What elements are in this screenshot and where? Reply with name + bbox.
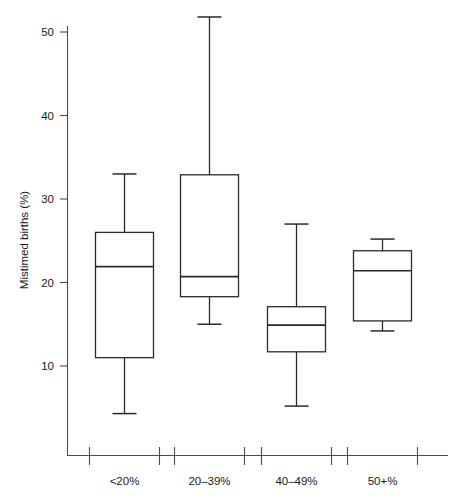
iqr-box xyxy=(268,307,326,352)
y-tick-label: 30 xyxy=(41,193,54,205)
y-tick-label: 40 xyxy=(41,110,54,122)
x-axis-category-label: 50+% xyxy=(368,475,398,487)
x-axis-category-label: 20–39% xyxy=(188,475,230,487)
y-tick-label: 10 xyxy=(41,360,54,372)
y-axis-title: Mistimed births (%) xyxy=(18,191,30,290)
x-axis-category-label: 40–49% xyxy=(275,475,317,487)
iqr-box xyxy=(354,251,412,321)
x-axis-category-label: <20% xyxy=(110,475,140,487)
boxplot-box-4 xyxy=(354,239,412,331)
iqr-box xyxy=(181,175,239,297)
boxplot-chart: 1020304050 <20%20–39%40–49%50+% Mistimed… xyxy=(0,0,456,499)
y-axis-ticks: 1020304050 xyxy=(41,26,67,372)
x-axis-labels: <20%20–39%40–49%50+% xyxy=(110,475,398,487)
boxplot-box-1 xyxy=(96,174,154,414)
iqr-box xyxy=(96,232,154,357)
boxplot-series xyxy=(96,17,412,414)
boxplot-box-3 xyxy=(268,224,326,406)
boxplot-box-2 xyxy=(181,17,239,324)
y-tick-label: 50 xyxy=(41,26,54,38)
y-tick-label: 20 xyxy=(41,277,54,289)
chart-canvas: 1020304050 <20%20–39%40–49%50+% Mistimed… xyxy=(0,0,456,499)
